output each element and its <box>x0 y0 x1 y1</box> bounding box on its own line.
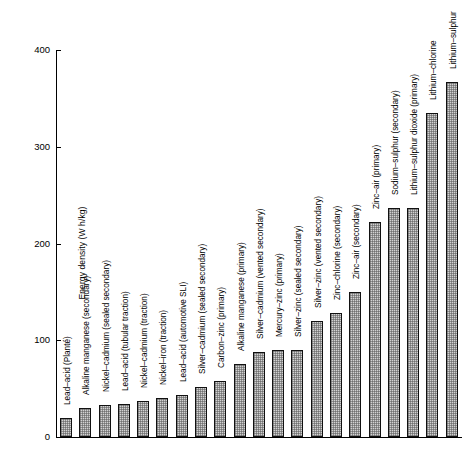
bar-group: Zinc–air (secondary) <box>349 50 361 437</box>
bar-category-label: Lithium–chlorine <box>429 40 438 100</box>
bar-category-label: Alkaline manganese (secondary) <box>82 276 91 395</box>
plot-area: Lead–acid (Planté)Alkaline manganese (se… <box>57 50 462 437</box>
bar-category-label: Silver–zinc (sealed secondary) <box>294 225 303 337</box>
bar <box>118 404 130 437</box>
bar <box>176 395 188 437</box>
bar-category-label: Silver–zinc (vented secondary) <box>313 196 322 308</box>
bar-group: Lithium–sulphur <box>446 50 458 437</box>
bar <box>272 350 284 437</box>
bar <box>99 405 111 437</box>
bar-group: Lithium–chlorine <box>426 50 438 437</box>
bar-group: Sodium–sulphur (secondary) <box>388 50 400 437</box>
bar-group: Nickel–cadmium (traction) <box>137 50 149 437</box>
x-axis-line <box>56 437 462 438</box>
bar-category-label: Lithium–sulphur dioxide (primary) <box>410 74 419 195</box>
bar-group: Mercury–zinc (primary) <box>272 50 284 437</box>
bar <box>214 381 226 437</box>
energy-density-bar-chart: Energy density (W h/kg) 0100200300400 Le… <box>0 0 469 465</box>
bar <box>195 387 207 437</box>
y-tick-0 <box>56 437 61 438</box>
bar-category-label: Mercury–zinc (primary) <box>275 253 284 337</box>
bar <box>234 364 246 437</box>
y-tick-label-200: 200 <box>4 238 50 249</box>
bar-category-label: Sodium–sulphur (secondary) <box>390 90 399 195</box>
bar-group: Silver–zinc (sealed secondary) <box>291 50 303 437</box>
bar-group: Nickel–cadmium (sealed secondary) <box>99 50 111 437</box>
bar-category-label: Nickel–iron (traction) <box>159 310 168 385</box>
bar-category-label: Alkaline manganese (primary) <box>236 243 245 352</box>
bar <box>330 313 342 437</box>
bar-category-label: Lead–acid (tubular traction) <box>120 291 129 391</box>
bar-group: Lead–acid (automotive SLI) <box>176 50 188 437</box>
bar-group: Silver–cadmium (vented secondary) <box>253 50 265 437</box>
bar-group: Lithium–sulphur dioxide (primary) <box>407 50 419 437</box>
bar-category-label: Carbon–zinc (primary) <box>217 287 226 368</box>
bar <box>388 208 400 437</box>
bar <box>407 208 419 437</box>
bar <box>79 408 91 437</box>
bar <box>311 321 323 437</box>
bar <box>60 418 72 437</box>
bar <box>446 82 458 437</box>
bar-group: Zinc–chlorine (secondary) <box>330 50 342 437</box>
bar-category-label: Zinc–air (primary) <box>371 145 380 209</box>
bar-group: Silver–zinc (vented secondary) <box>311 50 323 437</box>
y-tick-label-100: 100 <box>4 334 50 345</box>
bar <box>156 398 168 437</box>
bar-category-label: Silver–cadmium (sealed secondary) <box>198 244 207 374</box>
bar-group: Silver–cadmium (sealed secondary) <box>195 50 207 437</box>
y-tick-label-400: 400 <box>4 44 50 55</box>
bar-group: Alkaline manganese (primary) <box>234 50 246 437</box>
bar-category-label: Nickel–cadmium (traction) <box>140 294 149 389</box>
bar-group: Nickel–iron (traction) <box>156 50 168 437</box>
bar-group: Lead–acid (tubular traction) <box>118 50 130 437</box>
bar-group: Alkaline manganese (secondary) <box>79 50 91 437</box>
bar <box>426 113 438 437</box>
bar-category-label: Lead–acid (Planté) <box>63 336 72 405</box>
bar <box>369 222 381 437</box>
bar-category-label: Silver–cadmium (vented secondary) <box>255 208 264 339</box>
bar-category-label: Nickel–cadmium (sealed secondary) <box>101 260 110 392</box>
y-tick-label-300: 300 <box>4 141 50 152</box>
bar-category-label: Zinc–air (secondary) <box>352 204 361 279</box>
bar-category-label: Zinc–chlorine (secondary) <box>333 206 342 300</box>
bar-category-label: Lead–acid (automotive SLI) <box>178 282 187 382</box>
bar <box>137 401 149 437</box>
bar <box>349 292 361 437</box>
bar-group: Carbon–zinc (primary) <box>214 50 226 437</box>
bar <box>253 352 265 437</box>
bar-group: Lead–acid (Planté) <box>60 50 72 437</box>
bar-group: Zinc–air (primary) <box>369 50 381 437</box>
bar-category-label: Lithium–sulphur <box>448 11 457 69</box>
bar <box>291 350 303 437</box>
y-tick-label-0: 0 <box>4 431 50 442</box>
